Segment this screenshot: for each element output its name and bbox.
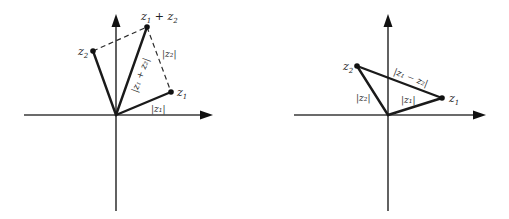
right-label-z2: z2 xyxy=(342,60,354,75)
left-mod-z1-label: |z₁| xyxy=(151,104,165,115)
complex-plane-figure: z2 z1 + z2 z1 |z₁| |z₂| |z₁ + z₂| z2 z1 … xyxy=(0,0,509,219)
left-y-axis-arrow-icon xyxy=(112,14,121,27)
left-dashed-sum-to-z1 xyxy=(147,27,171,92)
left-point-z1 xyxy=(168,89,174,95)
left-label-z2: z2 xyxy=(77,45,89,60)
left-diagram: z2 z1 + z2 z1 |z₁| |z₂| |z₁ + z₂| xyxy=(24,10,213,211)
right-diagram: z2 z1 |z₁ − z₂| |z₁| |z₂| xyxy=(294,14,486,211)
left-x-axis-arrow-icon xyxy=(200,111,213,120)
right-vector-z2 xyxy=(357,66,388,115)
left-label-sum: z1 + z2 xyxy=(140,10,178,25)
left-point-z2 xyxy=(90,48,96,54)
left-mod-sum-label: |z₁ + z₂| xyxy=(129,56,152,94)
left-mod-z2-label: |z₂| xyxy=(162,49,176,60)
right-mod-z2-label: |z₂| xyxy=(356,93,370,104)
left-label-z1: z1 xyxy=(176,86,187,101)
right-mod-z1-label: |z₁| xyxy=(401,95,415,106)
left-point-sum xyxy=(144,24,150,30)
right-label-z1: z1 xyxy=(448,92,459,107)
right-x-axis-arrow-icon xyxy=(473,111,486,120)
right-point-z2 xyxy=(354,63,360,69)
left-vector-z2 xyxy=(93,51,116,115)
right-y-axis-arrow-icon xyxy=(384,14,393,27)
right-point-z1 xyxy=(439,95,445,101)
